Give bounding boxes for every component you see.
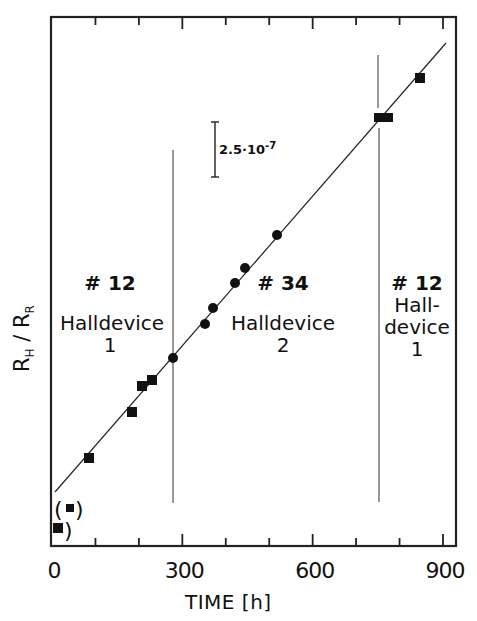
x-axis-label: TIME [h]	[185, 590, 272, 614]
fit-line	[55, 43, 446, 492]
circle-marker	[208, 303, 218, 313]
circle-marker	[168, 353, 178, 363]
square-marker	[147, 375, 157, 385]
annotation-device-12-right: # 12 Hall- device 1	[382, 272, 452, 360]
x-tick-label: 600	[295, 558, 334, 583]
square-marker	[137, 381, 147, 391]
paren: (	[54, 497, 63, 522]
y-axis-label: RH / RR	[10, 305, 37, 372]
circle-marker	[272, 230, 282, 240]
circle-marker	[200, 319, 210, 329]
x-tick-label: 900	[426, 558, 465, 583]
paren: )	[64, 518, 73, 543]
annotation-device-34: # 34 Halldevice 2	[228, 272, 338, 356]
regression-line	[55, 43, 446, 492]
annotation-device-12-left: # 12 Halldevice 1	[60, 272, 160, 356]
excluded-square-marker	[66, 504, 74, 512]
square-marker	[415, 73, 425, 83]
scale-bar	[211, 122, 219, 177]
scale-bar-label: 2.5·10-7	[219, 140, 276, 157]
x-tick-label: 300	[165, 558, 204, 583]
square-marker	[84, 453, 94, 463]
excluded-square-marker	[53, 523, 63, 533]
paren: )	[75, 497, 84, 522]
bar-marker	[374, 113, 393, 122]
x-tick-label: 0	[48, 558, 61, 583]
square-marker	[127, 407, 137, 417]
